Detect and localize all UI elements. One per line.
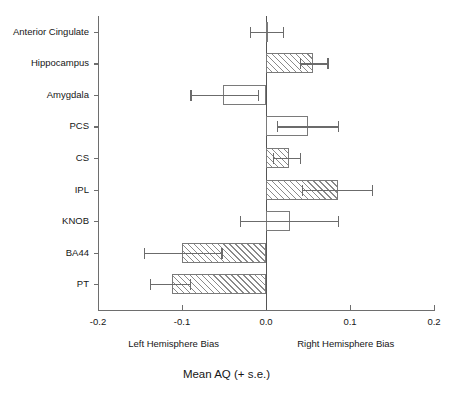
x-axis-line bbox=[98, 310, 435, 311]
error-bar-cap-high bbox=[300, 153, 301, 164]
y-axis-tick bbox=[94, 221, 99, 222]
y-axis-tick bbox=[94, 190, 99, 191]
error-bar-cap-high bbox=[338, 216, 339, 227]
left-hemisphere-bias-note: Left Hemisphere Bias bbox=[114, 338, 234, 349]
category-label: IPL bbox=[0, 185, 89, 195]
y-axis-tick bbox=[94, 95, 99, 96]
x-axis-tick-label: 0.0 bbox=[246, 317, 286, 327]
error-bar-line bbox=[277, 126, 338, 127]
error-bar-line bbox=[300, 63, 328, 64]
error-bar-cap-high bbox=[190, 279, 191, 290]
error-bar-line bbox=[144, 253, 221, 254]
category-label: PCS bbox=[0, 121, 89, 131]
y-axis-tick bbox=[94, 158, 99, 159]
error-bar-cap-low bbox=[302, 185, 303, 196]
error-bar-cap-low bbox=[144, 248, 145, 259]
x-axis-tick bbox=[182, 305, 183, 310]
right-hemisphere-bias-note: Right Hemisphere Bias bbox=[286, 338, 406, 349]
error-bar-line bbox=[302, 190, 372, 191]
y-axis-tick bbox=[94, 63, 99, 64]
error-bar-line bbox=[240, 221, 338, 222]
error-bar-cap-high bbox=[283, 27, 284, 38]
y-axis-tick bbox=[94, 32, 99, 33]
category-label: BA44 bbox=[0, 248, 89, 258]
error-bar-line bbox=[273, 158, 300, 159]
category-label: PT bbox=[0, 279, 89, 289]
error-bar-cap-high bbox=[327, 58, 328, 69]
error-bar-cap-low bbox=[277, 121, 278, 132]
error-bar-cap-low bbox=[240, 216, 241, 227]
error-bar-line bbox=[150, 284, 189, 285]
x-axis-title: Mean AQ (+ s.e.) bbox=[0, 368, 453, 381]
y-axis-line bbox=[98, 16, 99, 310]
error-bar-cap-high bbox=[221, 248, 222, 259]
error-bar-cap-low bbox=[150, 279, 151, 290]
error-bar-cap-low bbox=[300, 58, 301, 69]
x-axis-tick-label: 0.1 bbox=[330, 317, 370, 327]
category-label: Anterior Cingulate bbox=[0, 27, 89, 37]
category-label: KNOB bbox=[0, 216, 89, 226]
error-bar-cap-low bbox=[190, 90, 191, 101]
x-axis-tick bbox=[98, 305, 99, 310]
x-axis-tick bbox=[350, 305, 351, 310]
category-label: CS bbox=[0, 153, 89, 163]
x-axis-tick bbox=[434, 305, 435, 310]
x-axis-tick-label: -0.2 bbox=[78, 317, 118, 327]
category-label: Hippocampus bbox=[0, 58, 89, 68]
error-bar-line bbox=[190, 95, 257, 96]
error-bar-cap-high bbox=[258, 90, 259, 101]
error-bar-cap-low bbox=[250, 27, 251, 38]
error-bar-line bbox=[250, 32, 283, 33]
x-axis-tick-label: -0.1 bbox=[162, 317, 202, 327]
x-axis-tick-label: 0.2 bbox=[414, 317, 453, 327]
error-bar-cap-low bbox=[273, 153, 274, 164]
y-axis-tick bbox=[94, 253, 99, 254]
error-bar-cap-high bbox=[372, 185, 373, 196]
y-axis-tick bbox=[94, 126, 99, 127]
y-axis-tick bbox=[94, 284, 99, 285]
category-label: Amygdala bbox=[0, 90, 89, 100]
error-bar-cap-high bbox=[338, 121, 339, 132]
chart-figure: -0.2-0.10.00.10.2Anterior CingulateHippo… bbox=[0, 0, 453, 401]
